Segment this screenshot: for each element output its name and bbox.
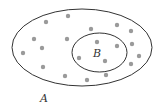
- sets-layer: [12, 9, 152, 86]
- element-dot: [77, 56, 81, 60]
- element-dot: [32, 37, 36, 41]
- element-dot: [40, 46, 44, 50]
- element-dot: [104, 73, 108, 77]
- set-a-label: A: [39, 92, 48, 105]
- element-dot: [89, 27, 93, 31]
- element-dot: [44, 20, 48, 24]
- element-dot: [63, 74, 67, 78]
- element-dot: [103, 59, 107, 63]
- elements-layer: [21, 14, 141, 82]
- set-a-ellipse: [12, 9, 152, 86]
- element-dot: [66, 14, 70, 18]
- element-dot: [41, 65, 45, 69]
- venn-diagram: AB: [0, 0, 161, 112]
- element-dot: [115, 23, 119, 27]
- element-dot: [130, 42, 134, 46]
- element-dot: [129, 29, 133, 33]
- element-dot: [137, 54, 141, 58]
- element-dot: [115, 44, 119, 48]
- labels-layer: AB: [39, 47, 101, 105]
- element-dot: [65, 37, 69, 41]
- element-dot: [95, 40, 99, 44]
- element-dot: [129, 62, 133, 66]
- element-dot: [21, 51, 25, 55]
- element-dot: [85, 78, 89, 82]
- set-b-label: B: [92, 47, 101, 60]
